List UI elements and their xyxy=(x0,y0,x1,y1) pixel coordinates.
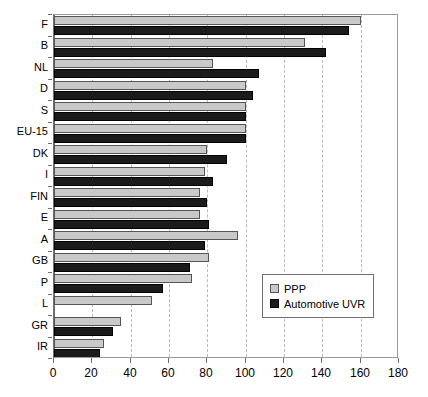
x-axis-tick-140 xyxy=(321,358,322,363)
bar-row xyxy=(54,316,397,338)
legend-swatch-ppp-icon xyxy=(270,284,279,293)
bar-ppp-IR xyxy=(54,339,104,348)
bar-uvr-D xyxy=(54,91,253,100)
bar-uvr-GR xyxy=(54,327,113,336)
y-axis-tick xyxy=(48,57,52,58)
bar-ppp-EU-15 xyxy=(54,124,246,133)
legend-swatch-uvr-icon xyxy=(270,299,279,308)
x-axis-label-140: 140 xyxy=(311,366,331,380)
bar-uvr-P xyxy=(54,284,163,293)
x-axis-label-160: 160 xyxy=(350,366,370,380)
bar-ppp-FIN xyxy=(54,188,200,197)
bar-uvr-FIN xyxy=(54,198,207,207)
y-axis-tick xyxy=(48,100,52,101)
y-axis-label-GB: GB xyxy=(0,255,48,266)
bar-ppp-F xyxy=(54,16,361,25)
y-axis-label-P: P xyxy=(0,277,48,288)
bar-row xyxy=(54,144,397,166)
y-axis-tick xyxy=(48,165,52,166)
x-axis-label-40: 40 xyxy=(123,366,136,380)
y-axis: FBNLDSEU-15DKIFINEAGBPLGRIR xyxy=(0,14,48,358)
y-axis-tick xyxy=(48,358,52,359)
y-axis-tick xyxy=(48,186,52,187)
bar-ppp-I xyxy=(54,167,205,176)
bar-uvr-I xyxy=(54,177,213,186)
bar-row xyxy=(54,37,397,59)
bar-uvr-A xyxy=(54,241,205,250)
y-axis-label-DK: DK xyxy=(0,148,48,159)
bar-ppp-A xyxy=(54,231,238,240)
bar-ppp-P xyxy=(54,274,192,283)
bar-row xyxy=(54,209,397,231)
x-axis-tick-80 xyxy=(206,358,207,363)
x-axis-label-180: 180 xyxy=(388,366,408,380)
legend-label-automotive-uvr: Automotive UVR xyxy=(284,298,365,310)
chart-container: FBNLDSEU-15DKIFINEAGBPLGRIR 020406080100… xyxy=(0,0,428,397)
bar-row xyxy=(54,80,397,102)
bar-row xyxy=(54,166,397,188)
bar-row xyxy=(54,187,397,209)
bar-row xyxy=(54,101,397,123)
y-axis-label-S: S xyxy=(0,105,48,116)
x-axis-tick-40 xyxy=(130,358,131,363)
bar-uvr-EU-15 xyxy=(54,134,246,143)
y-axis-tick xyxy=(48,79,52,80)
bar-ppp-D xyxy=(54,81,246,90)
y-axis-label-F: F xyxy=(0,19,48,30)
y-axis-tick xyxy=(48,122,52,123)
y-axis-label-B: B xyxy=(0,40,48,51)
x-axis-tick-0 xyxy=(53,358,54,363)
bar-uvr-DK xyxy=(54,155,227,164)
x-axis-labels: 020406080100120140160180 xyxy=(0,366,428,382)
x-axis-ticks xyxy=(53,358,398,364)
y-axis-label-L: L xyxy=(0,298,48,309)
y-axis-label-D: D xyxy=(0,83,48,94)
y-axis-tick xyxy=(48,272,52,273)
bar-uvr-B xyxy=(54,48,326,57)
x-axis-label-120: 120 xyxy=(273,366,293,380)
bar-ppp-NL xyxy=(54,59,213,68)
bar-row xyxy=(54,252,397,274)
bar-uvr-S xyxy=(54,112,246,121)
y-axis-label-IR: IR xyxy=(0,341,48,352)
x-axis-tick-60 xyxy=(168,358,169,363)
y-axis-tick xyxy=(48,208,52,209)
x-axis-tick-100 xyxy=(245,358,246,363)
bar-uvr-GB xyxy=(54,263,190,272)
x-axis-label-80: 80 xyxy=(199,366,212,380)
bar-ppp-GB xyxy=(54,253,209,262)
y-axis-label-A: A xyxy=(0,234,48,245)
bar-row xyxy=(54,230,397,252)
bar-ppp-GR xyxy=(54,317,121,326)
x-axis-tick-120 xyxy=(283,358,284,363)
y-axis-label-E: E xyxy=(0,212,48,223)
y-axis-label-FIN: FIN xyxy=(0,191,48,202)
y-axis-tick xyxy=(48,315,52,316)
y-axis-tick xyxy=(48,294,52,295)
bar-row xyxy=(54,338,397,359)
y-axis-tick xyxy=(48,229,52,230)
bar-uvr-IR xyxy=(54,349,100,358)
x-axis-label-0: 0 xyxy=(50,366,57,380)
bar-uvr-F xyxy=(54,26,349,35)
x-axis-tick-160 xyxy=(360,358,361,363)
x-axis-tick-180 xyxy=(398,358,399,363)
y-axis-label-I: I xyxy=(0,169,48,180)
bar-ppp-S xyxy=(54,102,246,111)
y-axis-tick xyxy=(48,143,52,144)
bar-row xyxy=(54,15,397,37)
legend-label-ppp: PPP xyxy=(284,283,306,295)
bar-row xyxy=(54,123,397,145)
x-axis-label-20: 20 xyxy=(84,366,97,380)
y-axis-label-GR: GR xyxy=(0,320,48,331)
bar-ppp-L xyxy=(54,296,152,305)
bar-ppp-DK xyxy=(54,145,207,154)
x-axis-tick-20 xyxy=(91,358,92,363)
chart-legend: PPP Automotive UVR xyxy=(262,274,374,318)
bar-row xyxy=(54,58,397,80)
y-axis-tick xyxy=(48,36,52,37)
y-axis-label-NL: NL xyxy=(0,62,48,73)
bar-uvr-NL xyxy=(54,69,259,78)
y-axis-tick xyxy=(48,251,52,252)
legend-item-ppp: PPP xyxy=(270,281,365,296)
